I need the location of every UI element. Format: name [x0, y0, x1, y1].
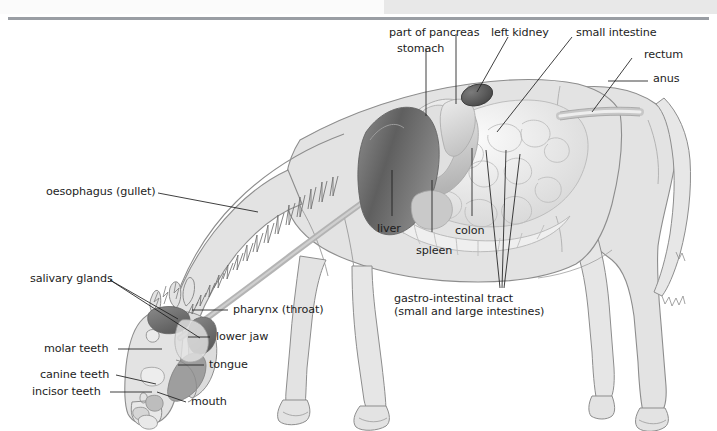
label-oesophagus: oesophagus (gullet) [46, 185, 156, 198]
label-tongue: tongue [209, 358, 248, 371]
label-colon: colon [455, 224, 485, 237]
label-mouth: mouth [191, 395, 227, 408]
canine-teeth-organ [146, 395, 163, 411]
label-lower-jaw: lower jaw [216, 330, 268, 343]
label-gastro-line1: gastro-intestinal tract [394, 292, 513, 305]
label-spleen: spleen [416, 244, 452, 257]
label-anus: anus [653, 72, 679, 85]
top-band-right [384, 0, 717, 14]
horse-digestive-diagram: part of pancreas stomach left kidney sma… [0, 20, 717, 431]
label-incisor-teeth: incisor teeth [32, 385, 101, 398]
label-molar-teeth: molar teeth [44, 342, 108, 355]
label-canine-teeth: canine teeth [40, 368, 109, 381]
label-salivary-glands: salivary glands [30, 272, 113, 285]
leader-salivary-1 [110, 280, 178, 319]
label-small-intestine: small intestine [576, 26, 657, 39]
label-liver: liver [377, 222, 401, 235]
hooves [278, 396, 669, 431]
figure-page: part of pancreas stomach left kidney sma… [0, 0, 717, 431]
label-left-kidney: left kidney [491, 26, 549, 39]
mouth-opening [138, 415, 157, 429]
top-band-left [0, 0, 384, 14]
label-gastro-line2: (small and large intestines) [394, 305, 544, 318]
label-pharynx: pharynx (throat) [233, 303, 324, 316]
label-rectum: rectum [644, 48, 683, 61]
label-stomach: stomach [397, 42, 444, 55]
label-part-of-pancreas: part of pancreas [389, 26, 479, 39]
